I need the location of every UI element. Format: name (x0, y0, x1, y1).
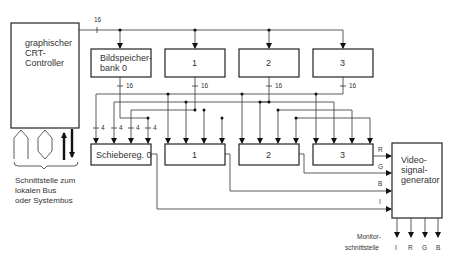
video-signal-generator: Video- signal- generator (392, 143, 442, 218)
frame-buffer-bank-1: 1 (165, 49, 225, 77)
frame-buffer-bank-3: 3 (313, 49, 373, 77)
monitor-label-line-1: Monitor- (357, 233, 381, 240)
shift-register-3: 3 (313, 144, 373, 165)
bus-interface-line-1: Schnittstelle zum (15, 176, 76, 185)
controller-label-line-2: CRT- (25, 48, 46, 58)
controller-label-line-1: graphischer (25, 38, 72, 48)
bus-interface-line-2: lokalen Bus (15, 186, 56, 195)
reg-in-width-1: 4 (101, 124, 105, 131)
monitor-out-g: G (422, 244, 427, 251)
videogen-line-1: Video- (401, 155, 427, 165)
shift-reg-0-label: Schiebereg. 0 (96, 150, 152, 160)
signal-b-label: B (378, 180, 382, 187)
videogen-line-2: signal- (401, 165, 428, 175)
bank-2-width: 16 (275, 82, 283, 89)
shift-reg-2-label: 2 (266, 150, 271, 160)
monitor-out-i: I (395, 244, 397, 251)
monitor-label-line-2: schnittstelle (345, 244, 379, 251)
shift-register-0: Schiebereg. 0 (91, 144, 152, 165)
reg-in-width-2: 4 (119, 124, 123, 131)
shift-register-1: 1 (165, 144, 225, 165)
bus-interface-line-3: oder Systembus (15, 196, 73, 205)
bank-0-label-line-1: Bildspeicher- (100, 53, 152, 63)
controller-label-line-3: Controller (25, 58, 64, 68)
signal-i-label: I (379, 198, 381, 205)
bank-3-label: 3 (340, 58, 345, 68)
monitor-out-r: R (408, 244, 413, 251)
address-bus-16: 16 (79, 16, 343, 48)
reg-in-width-3: 4 (136, 124, 140, 131)
brace-icon (14, 162, 78, 169)
bank-1-width: 16 (201, 82, 209, 89)
bank-output-buses: 16 16 16 16 (93, 77, 370, 143)
shift-reg-3-label: 3 (340, 150, 345, 160)
bank-0-width: 16 (126, 82, 134, 89)
signal-r-label: R (378, 146, 383, 153)
up-arrow-icon (14, 130, 28, 159)
crt-controller-block: graphischer CRT- Controller (11, 23, 79, 128)
bank-3-width: 16 (349, 82, 357, 89)
frame-buffer-bank-0: Bildspeicher- bank 0 (91, 49, 152, 77)
monitor-out-b: B (436, 244, 440, 251)
monitor-outputs: I R G B Monitor- schnittstelle (345, 218, 440, 251)
signal-g-label: G (378, 163, 383, 170)
shift-reg-1-label: 1 (192, 150, 197, 160)
bank-1-label: 1 (192, 58, 197, 68)
bus-width-top: 16 (94, 16, 102, 23)
shift-register-2: 2 (239, 144, 299, 165)
reg-in-width-4: 4 (153, 124, 157, 131)
bank-0-label-line-2: bank 0 (100, 63, 127, 73)
bus-interface-arrows: Schnittstelle zum lokalen Bus oder Syste… (14, 129, 78, 205)
frame-buffer-bank-2: 2 (239, 49, 299, 77)
bidirectional-arrow-icon (38, 130, 52, 159)
crt-controller-block-diagram: graphischer CRT- Controller 16 Bildspeic… (0, 0, 455, 261)
bank-2-label: 2 (266, 58, 271, 68)
videogen-line-3: generator (401, 175, 440, 185)
